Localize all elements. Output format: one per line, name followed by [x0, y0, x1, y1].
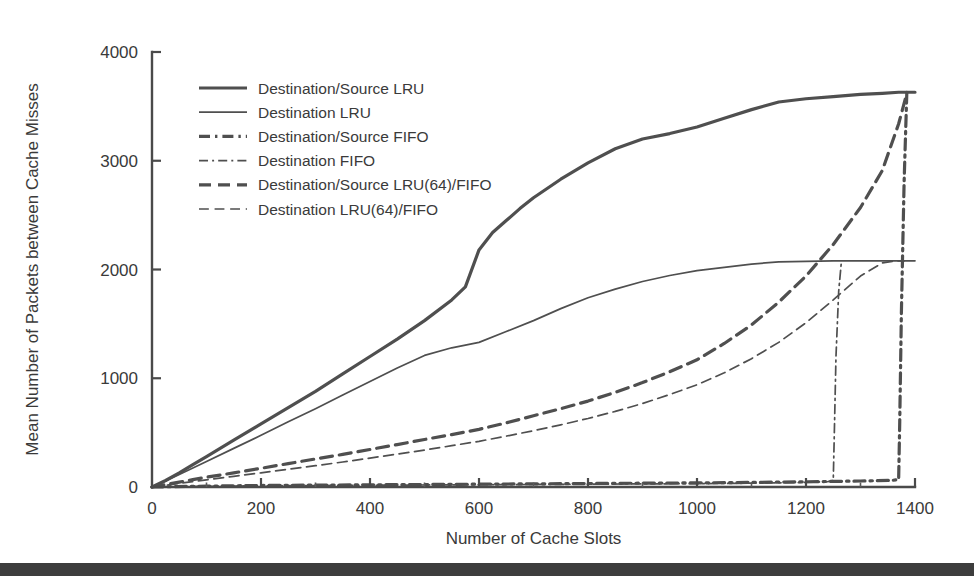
legend-label-4: Destination/Source LRU(64)/FIFO: [258, 176, 491, 193]
y-tick-label: 3000: [100, 152, 138, 171]
x-tick-label: 1200: [787, 499, 825, 518]
legend-label-0: Destination/Source LRU: [258, 80, 424, 97]
legend-label-2: Destination/Source FIFO: [258, 128, 429, 145]
x-tick-label: 400: [356, 499, 384, 518]
x-tick-label: 1400: [896, 499, 934, 518]
x-axis-title: Number of Cache Slots: [446, 529, 622, 548]
y-axis-title: Mean Number of Packets between Cache Mis…: [23, 83, 42, 455]
figure-container: 0100020003000400002004006008001000120014…: [0, 0, 974, 581]
axis-labels-layer: 0100020003000400002004006008001000120014…: [23, 43, 934, 548]
y-tick-label: 0: [129, 478, 138, 497]
legend-label-3: Destination FIFO: [258, 152, 375, 169]
x-tick-label: 600: [465, 499, 493, 518]
y-tick-label: 2000: [100, 261, 138, 280]
y-tick-label: 1000: [100, 369, 138, 388]
y-tick-label: 4000: [100, 43, 138, 62]
series-line-3: [152, 261, 841, 487]
legend-label-5: Destination LRU(64)/FIFO: [258, 201, 438, 218]
series-line-1: [152, 261, 915, 487]
chart-canvas: 0100020003000400002004006008001000120014…: [0, 0, 974, 581]
x-tick-label: 800: [574, 499, 602, 518]
x-tick-label: 0: [147, 499, 156, 518]
legend: Destination/Source LRUDestination LRUDes…: [199, 80, 491, 218]
series-line-5: [152, 261, 904, 487]
legend-label-1: Destination LRU: [258, 104, 371, 121]
x-tick-label: 200: [247, 499, 275, 518]
x-tick-label: 1000: [678, 499, 716, 518]
bottom-rule-band: [0, 563, 974, 576]
